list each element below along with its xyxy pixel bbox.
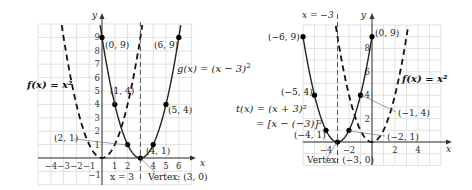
data-point: [300, 34, 305, 39]
svg-text:−4: −4: [320, 145, 333, 155]
svg-text:−2: −2: [343, 145, 356, 155]
svg-text:4: 4: [150, 161, 155, 171]
right-chart: −4−2242468 x = −3 y x (−6, 9) (0, 9) (−5…: [236, 10, 452, 165]
svg-text:6: 6: [95, 73, 100, 83]
label-4-1: (4, 1): [146, 146, 170, 156]
leader-2-1: [74, 139, 127, 145]
label-1-4: (1, 4): [110, 86, 134, 96]
left-x-arrow-icon: [190, 156, 196, 161]
left-f-label: f(x) = x²: [26, 79, 73, 90]
left-g-label: g(x) = (x − 3)2: [177, 62, 251, 74]
label-m6-9: (−6, 9): [268, 32, 300, 42]
left-x-label: x: [200, 158, 205, 168]
svg-text:2: 2: [392, 145, 397, 155]
svg-text:2: 2: [365, 114, 370, 124]
label-5-4: (5, 4): [168, 105, 192, 115]
right-t-label-line1: t(x) = (x + 3)²: [236, 103, 307, 114]
label-6-9: (6, 9): [154, 40, 178, 50]
right-asymptote-label: x = −3: [302, 10, 334, 20]
svg-text:9: 9: [95, 32, 100, 42]
label-m5-4: (−5, 4): [281, 87, 313, 97]
svg-text:4: 4: [415, 145, 420, 155]
label-right-0-9: (0, 9): [375, 28, 399, 38]
svg-text:5: 5: [163, 161, 168, 171]
label-0-9: (0, 9): [105, 40, 129, 50]
label-m1-4: (−1, 4): [398, 108, 430, 118]
right-x-label: x: [446, 144, 451, 154]
svg-text:8: 8: [95, 46, 100, 56]
data-point: [358, 93, 363, 98]
svg-text:−3: −3: [57, 161, 70, 171]
svg-text:4: 4: [95, 99, 100, 109]
right-y-label: y: [360, 10, 367, 20]
svg-text:5: 5: [95, 86, 100, 96]
right-f-label: f(x) = x²: [401, 73, 448, 84]
left-chart: −4−3−2−112456123456789−1 y x (0, 9) (6, …: [26, 10, 251, 185]
data-point: [99, 35, 104, 40]
svg-text:−4: −4: [45, 161, 58, 171]
left-vertex-label: Vertex: (3, 0): [147, 172, 207, 182]
svg-text:2: 2: [95, 126, 100, 136]
leader-m2-1: [349, 131, 385, 136]
left-y-arrow-icon: [100, 13, 105, 19]
chart-canvas: −4−3−2−112456123456789−1 y x (0, 9) (6, …: [0, 0, 472, 190]
left-y-label: y: [91, 10, 98, 20]
svg-text:−1: −1: [88, 170, 101, 180]
label-m4-1: (−4, 1): [294, 130, 326, 140]
data-point: [369, 34, 374, 39]
svg-text:1: 1: [112, 161, 117, 171]
data-point: [346, 128, 351, 133]
right-vertex-label: Vertex: (−3, 0): [306, 155, 374, 165]
svg-text:3: 3: [95, 113, 100, 123]
leader-m1-4: [361, 95, 396, 112]
svg-text:6: 6: [176, 161, 181, 171]
svg-text:−2: −2: [70, 161, 83, 171]
label-m2-1: (−2, 1): [387, 132, 419, 142]
label-2-1: (2, 1): [54, 133, 78, 143]
left-asymptote-label: x = 3: [110, 172, 134, 182]
right-t-label-line2: = [x − (−3)]²: [256, 118, 322, 129]
svg-text:7: 7: [95, 59, 100, 69]
right-y-arrow-icon: [370, 13, 375, 19]
svg-text:2: 2: [125, 161, 130, 171]
